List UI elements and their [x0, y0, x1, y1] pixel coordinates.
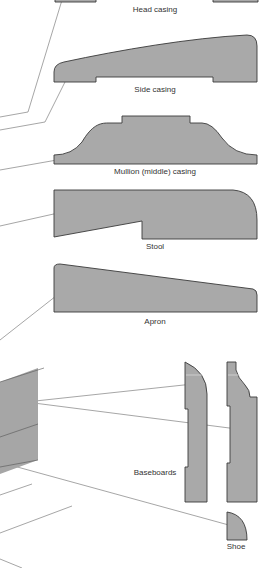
apron-label: Apron [144, 317, 165, 326]
wall-section [0, 368, 44, 474]
mullion-casing-label: Mullion (middle) casing [114, 167, 196, 176]
leader-head-casing [0, 0, 62, 117]
stool-profile [54, 190, 257, 239]
shoe-profile [227, 512, 247, 540]
side-casing-profile [54, 35, 257, 82]
stool-label: Stool [146, 242, 164, 251]
head-casing-profile [55, 0, 258, 2]
mullion-casing-profile [54, 116, 257, 164]
baseboard-2-profile [227, 362, 257, 502]
floor-line-1 [0, 484, 32, 495]
floor-line-2 [0, 506, 72, 533]
apron-profile [54, 264, 257, 312]
baseboard-1-profile [185, 362, 207, 502]
leader-baseboard-1 [26, 384, 193, 402]
side-casing-label: Side casing [134, 85, 175, 94]
head-casing-label: Head casing [133, 5, 177, 14]
baseboards-label: Baseboards [134, 468, 177, 477]
shoe-label: Shoe [227, 542, 246, 551]
leader-baseboard-2 [26, 402, 245, 430]
floor-line-3 [0, 559, 22, 568]
